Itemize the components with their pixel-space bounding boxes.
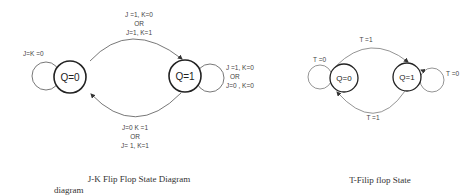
jk-q1-self-label-line3: J=0 , K=0 xyxy=(226,82,254,89)
jk-flip-flop-diagram: Q=0 Q=1 J=K =0 J =1, K=0 OR J=1, K=1 J =… xyxy=(23,11,254,195)
jk-q0-to-q1-label-line1: J =1, K=0 xyxy=(125,11,153,18)
t-q0-self-loop xyxy=(308,65,332,89)
jk-state-q0-label: Q=0 xyxy=(60,72,80,83)
jk-q0-to-q1-label-line3: J=1, K=1 xyxy=(126,29,152,36)
t-q1-self-label: T =0 xyxy=(446,70,459,77)
t-state-q0-label: Q=0 xyxy=(336,74,352,83)
jk-arc-q0-to-q1 xyxy=(90,39,182,61)
t-caption: T-Filip flop State xyxy=(349,175,411,185)
state-diagrams-canvas: Q=0 Q=1 J=K =0 J =1, K=0 OR J=1, K=1 J =… xyxy=(0,0,474,196)
jk-q1-to-q0-label-line1: J=0 K =1 xyxy=(122,124,148,131)
jk-q1-to-q0-label-line2: OR xyxy=(130,133,140,140)
jk-q1-self-label-line2: OR xyxy=(230,73,240,80)
t-q0-to-q1-label: T =1 xyxy=(359,36,372,43)
t-state-q1-label: Q=1 xyxy=(399,73,415,82)
jk-state-q1-label: Q=1 xyxy=(175,71,195,82)
jk-q1-to-q0-label-line3: J= 1, K=1 xyxy=(121,142,149,149)
t-arc-q1-to-q0 xyxy=(337,91,405,113)
t-q1-self-loop xyxy=(420,68,444,92)
jk-caption: J-K Flip Flop State Diagram xyxy=(88,174,191,184)
t-arc-q0-to-q1 xyxy=(336,48,408,66)
jk-arc-q1-to-q0 xyxy=(91,93,181,117)
jk-q0-self-label: J=K =0 xyxy=(23,50,44,57)
t-flip-flop-diagram: Q=0 Q=1 T =0 T =1 T =0 T =1 T-Filip flop… xyxy=(308,36,459,185)
t-q1-to-q0-label: T =1 xyxy=(366,114,379,121)
t-q0-self-label: T =0 xyxy=(313,56,326,63)
jk-q1-self-label-line1: J =1, K=0 xyxy=(226,64,254,71)
jk-caption-extra: diagram xyxy=(54,185,84,195)
jk-q0-to-q1-label-line2: OR xyxy=(134,20,144,27)
